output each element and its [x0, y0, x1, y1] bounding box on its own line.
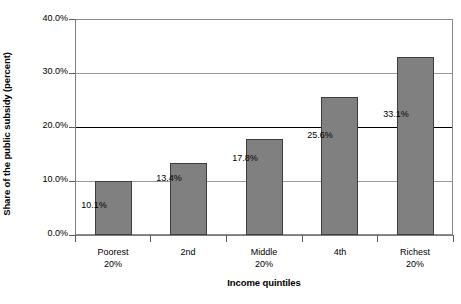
- bar-value-label-poorest-20: 10.1%: [64, 200, 124, 210]
- x-axis-line: [75, 235, 454, 236]
- x-category-label-4th: 4th: [309, 246, 371, 258]
- x-tick-mark-2: [226, 235, 227, 242]
- bar-value-label-4th: 25.6%: [290, 130, 350, 140]
- bar-4th[interactable]: [321, 97, 358, 235]
- x-category-line-1: Middle: [233, 246, 295, 258]
- x-category-label-richest-20: Richest 20%: [384, 246, 446, 270]
- gridline-20pct: [76, 127, 452, 128]
- y-axis-title: Share of the public subsidy (percent): [0, 26, 14, 242]
- x-tick-mark-0: [75, 235, 76, 242]
- bar-value-label-middle-20: 17.8%: [215, 153, 275, 163]
- x-category-line-2: 20%: [82, 258, 144, 270]
- x-category-line-1: Richest: [384, 246, 446, 258]
- bar-value-label-2nd: 13.4%: [139, 173, 199, 183]
- x-category-line-1: Poorest: [82, 246, 144, 258]
- bar-value-label-richest-20: 33.1%: [366, 109, 426, 119]
- x-category-label-2nd: 2nd: [157, 246, 219, 258]
- bar-richest-20[interactable]: [397, 57, 434, 236]
- x-category-line-2: 20%: [384, 258, 446, 270]
- x-category-label-poorest-20: Poorest 20%: [82, 246, 144, 270]
- x-tick-mark-4: [377, 235, 378, 242]
- x-category-line-2: 20%: [233, 258, 295, 270]
- x-category-line-1: 2nd: [157, 246, 219, 258]
- x-axis-title: Income quintiles: [75, 277, 453, 288]
- plot-area: [75, 19, 453, 235]
- y-axis-line: [75, 19, 76, 236]
- x-tick-mark-5: [453, 235, 454, 242]
- bar-chart-figure: Share of the public subsidy (percent) 0.…: [0, 0, 461, 304]
- x-tick-mark-3: [302, 235, 303, 242]
- x-category-label-middle-20: Middle 20%: [233, 246, 295, 270]
- gridline-30pct: [76, 73, 452, 74]
- x-tick-mark-1: [150, 235, 151, 242]
- x-category-line-1: 4th: [309, 246, 371, 258]
